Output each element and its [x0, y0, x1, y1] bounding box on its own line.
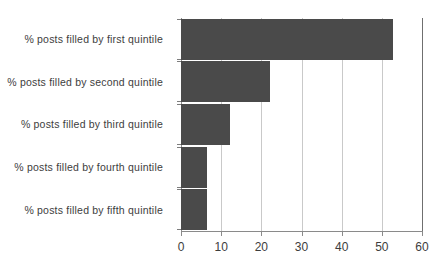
category-label-second-quintile: % posts filled by second quintile — [7, 76, 163, 88]
x-tick-50 — [382, 231, 383, 236]
plot-area — [181, 18, 422, 231]
category-label-row: % posts filled by fourth quintile — [0, 146, 172, 189]
category-axis: % posts filled by first quintile % posts… — [0, 18, 172, 231]
category-label-fourth-quintile: % posts filled by fourth quintile — [14, 161, 163, 173]
x-tick-40 — [342, 231, 343, 236]
bar-2[interactable] — [181, 61, 270, 102]
x-tick-label-50: 50 — [375, 240, 388, 254]
x-tick-label-10: 10 — [214, 240, 227, 254]
bar-3[interactable] — [181, 104, 230, 145]
x-tick-label-0: 0 — [178, 240, 185, 254]
category-tick — [177, 61, 181, 62]
category-tick — [177, 104, 181, 105]
x-tick-label-30: 30 — [295, 240, 308, 254]
x-tick-20 — [261, 231, 262, 236]
category-tick — [177, 189, 181, 190]
category-label-row: % posts filled by first quintile — [0, 18, 172, 61]
x-tick-label-20: 20 — [255, 240, 268, 254]
x-tick-0 — [181, 231, 182, 236]
bar-row[interactable] — [181, 103, 422, 146]
category-label-row: % posts filled by fifth quintile — [0, 188, 172, 231]
bar-chart: % posts filled by first quintile % posts… — [0, 0, 444, 270]
x-tick-60 — [422, 231, 423, 236]
category-tick — [177, 147, 181, 148]
bar-row[interactable] — [181, 61, 422, 104]
bar-row[interactable] — [181, 188, 422, 231]
bar-1[interactable] — [181, 19, 393, 60]
x-tick-30 — [302, 231, 303, 236]
x-tick-10 — [221, 231, 222, 236]
x-tick-label-60: 60 — [415, 240, 428, 254]
bar-row[interactable] — [181, 18, 422, 61]
bar-row[interactable] — [181, 146, 422, 189]
x-tick-label-40: 40 — [335, 240, 348, 254]
bar-5[interactable] — [181, 189, 207, 230]
category-label-row: % posts filled by third quintile — [0, 103, 172, 146]
category-label-first-quintile: % posts filled by first quintile — [24, 33, 163, 45]
category-label-third-quintile: % posts filled by third quintile — [21, 118, 163, 130]
bar-4[interactable] — [181, 147, 207, 188]
gridline-60 — [422, 18, 423, 231]
category-label-fifth-quintile: % posts filled by fifth quintile — [24, 204, 163, 216]
bars-layer — [181, 18, 422, 231]
category-tick — [177, 19, 181, 20]
category-label-row: % posts filled by second quintile — [0, 61, 172, 104]
